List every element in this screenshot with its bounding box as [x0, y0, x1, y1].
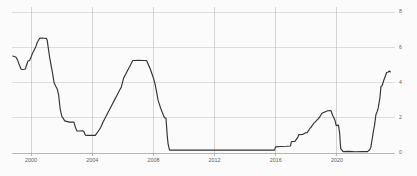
chart-container: 02468 200020042008201220162020 [0, 0, 417, 176]
xtick-label-2008: 2008 [147, 157, 159, 163]
series-line-rate [13, 38, 391, 152]
ytick-label-6: 6 [399, 44, 402, 50]
xtick-label-2012: 2012 [209, 157, 221, 163]
ytick-label-4: 4 [399, 79, 402, 85]
xtick-label-2004: 2004 [86, 157, 98, 163]
tickmarks-group [31, 153, 337, 156]
gridlines-group [12, 12, 395, 118]
ytick-label-2: 2 [399, 114, 402, 120]
x-axis-tick-labels: 200020042008201220162020 [25, 157, 343, 163]
y-axis-tick-labels: 02468 [399, 8, 402, 155]
line-chart-plot: 02468 200020042008201220162020 [0, 0, 417, 176]
ytick-label-8: 8 [399, 8, 402, 14]
xtick-label-2020: 2020 [331, 157, 343, 163]
xtick-label-2000: 2000 [25, 157, 37, 163]
xtick-label-2016: 2016 [270, 157, 282, 163]
ytick-label-0: 0 [399, 149, 402, 155]
